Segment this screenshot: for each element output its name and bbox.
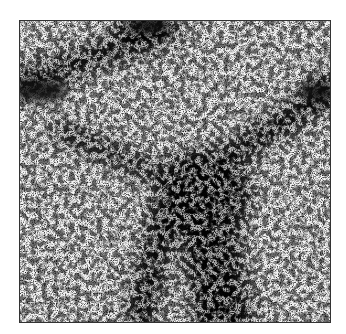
- density-map-image: [20, 21, 330, 322]
- dense-filaments: [20, 21, 330, 322]
- density-map-frame: [19, 20, 331, 323]
